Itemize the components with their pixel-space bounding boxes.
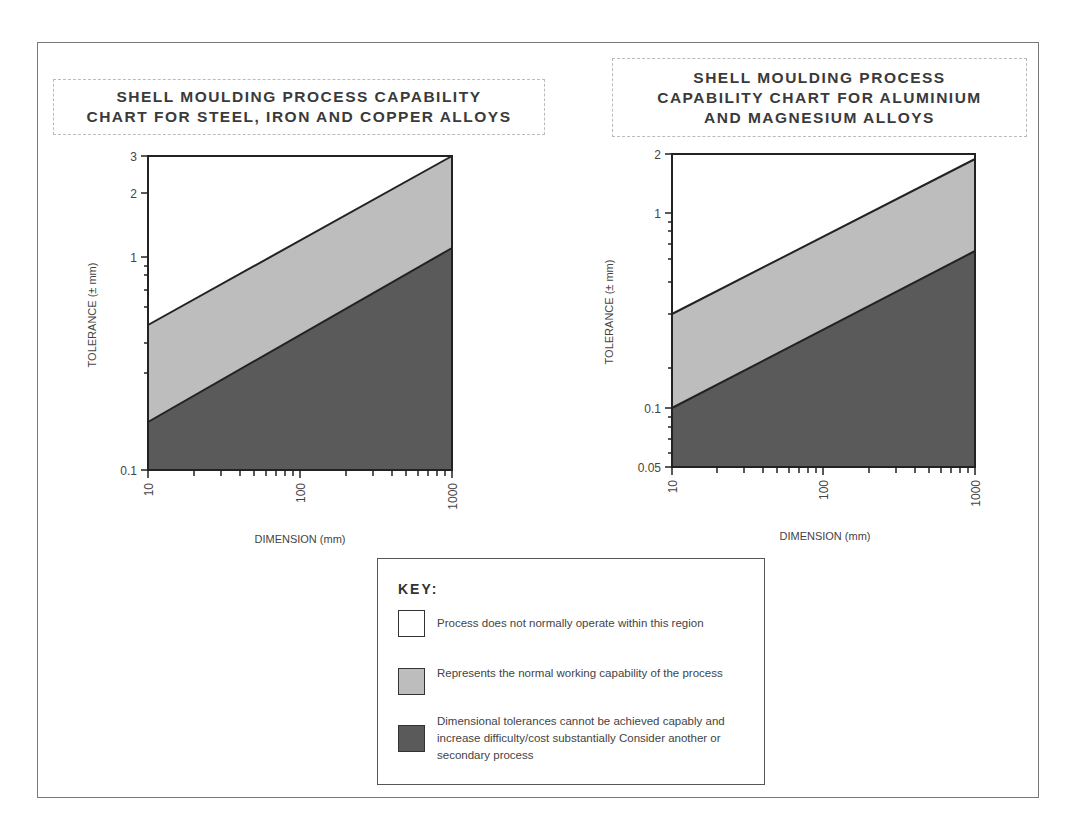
swatch-light-gray [398,668,425,695]
x-tick: 10 [666,480,680,494]
key-text: Dimensional tolerances cannot be achieve… [437,713,747,764]
x-tick: 1000 [969,480,983,507]
y-tick: 2 [654,148,661,162]
y-tick: 1 [654,207,661,221]
key-text: Represents the normal working capability… [437,665,737,682]
y-tick: 0.1 [644,402,661,416]
x-axis-label: DIMENSION (mm) [779,530,870,542]
key-title: KEY: [398,581,438,597]
swatch-white [398,610,425,637]
key-item-normal-capability: Represents the normal working capability… [398,668,737,695]
swatch-dark-gray [398,725,425,752]
x-tick: 100 [817,480,831,500]
y-tick: 0.05 [638,461,662,475]
key-item-not-achievable: Dimensional tolerances cannot be achieve… [398,725,747,764]
legend-key: KEY: Process does not normally operate w… [377,558,765,785]
key-item-not-operate: Process does not normally operate within… [398,610,757,637]
key-text: Process does not normally operate within… [437,615,757,632]
y-axis-label: TOLERANCE (± mm) [603,260,615,365]
